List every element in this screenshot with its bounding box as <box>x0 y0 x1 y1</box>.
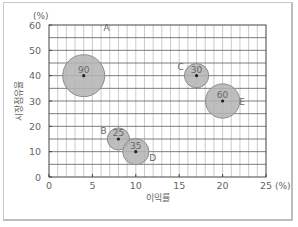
bubble-name-label: A <box>104 23 111 33</box>
y-tick-label: 40 <box>29 70 41 81</box>
bubble-size-label: 35 <box>130 141 141 151</box>
bubble-size-label: 90 <box>78 65 90 75</box>
bubble-chart: 90A25B30C35D60E (%) (%) 이익률 시장점유율 051015… <box>0 0 298 227</box>
y-tick-label: 10 <box>29 146 41 157</box>
bubble-c: 30C <box>178 62 209 88</box>
bubble-name-label: B <box>100 126 106 136</box>
y-tick-label: 30 <box>29 96 41 107</box>
x-tick-label: 20 <box>217 180 229 191</box>
bubble-size-label: 60 <box>217 90 229 100</box>
x-tick-label: 15 <box>173 180 185 191</box>
x-unit-label: (%) <box>275 181 291 191</box>
bubble-e: 60E <box>205 84 245 118</box>
y-tick-label: 50 <box>29 45 41 56</box>
chart-bubbles: 90A25B30C35D60E <box>63 23 246 164</box>
x-tick-label: 25 <box>260 180 272 191</box>
bubble-size-label: 25 <box>113 128 124 138</box>
y-tick-label: 20 <box>29 121 41 132</box>
x-tick-label: 10 <box>130 180 142 191</box>
x-tick-label: 0 <box>46 180 52 191</box>
y-tick-label: 60 <box>29 20 41 31</box>
bubble-name-label: E <box>239 97 245 107</box>
bubble-size-label: 30 <box>191 65 203 75</box>
bubble-name-label: C <box>178 62 184 72</box>
x-axis-title: 이익률 <box>146 192 170 203</box>
y-tick-label: 0 <box>35 172 41 183</box>
chart-labels: (%) (%) 이익률 시장점유율 0510152025010203040506… <box>13 11 291 203</box>
bubble-name-label: D <box>149 153 156 163</box>
x-tick-label: 5 <box>89 180 95 191</box>
bubble-d: 35D <box>123 139 157 165</box>
y-axis-title: 시장점유율 <box>13 81 24 121</box>
bubble-a: 90A <box>63 23 111 96</box>
